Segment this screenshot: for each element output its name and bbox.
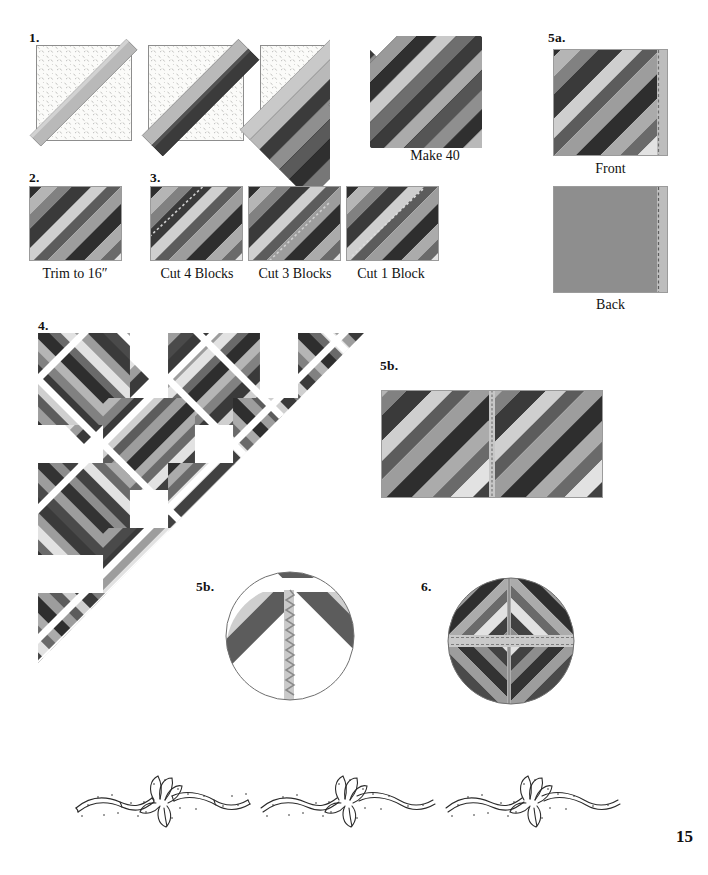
step-2-block <box>29 186 122 261</box>
step-1-panel-2 <box>148 45 244 141</box>
floral-ribbon-motif-3 <box>438 772 628 834</box>
step-5b-seam-detail <box>216 578 364 700</box>
step-2-caption: Trim to 16″ <box>14 266 136 282</box>
step-3-block-3 <box>346 186 439 261</box>
step-3-label: 3. <box>150 170 161 186</box>
step-5a-front-caption: Front <box>548 161 673 177</box>
step-5a-front-block <box>553 49 668 156</box>
step-5b-detail-label: 5b. <box>196 579 214 595</box>
step-6-detail-label: 6. <box>421 579 432 595</box>
step-3-caption-3: Cut 1 Block <box>336 266 446 282</box>
step-5a-label: 5a. <box>548 30 565 46</box>
step-3-block-2 <box>248 186 341 261</box>
step-1-label: 1. <box>29 30 40 46</box>
step-5a-back-block <box>553 186 668 293</box>
step-1-caption: Make 40 <box>385 148 485 164</box>
step-1-panel-4 <box>370 36 482 148</box>
step-2-label: 2. <box>29 170 40 186</box>
step-6-intersection-detail <box>441 578 581 708</box>
step-4-label: 4. <box>38 318 49 334</box>
step-5a-back-caption: Back <box>548 297 673 313</box>
step-3-block-1 <box>150 186 243 261</box>
floral-ribbon-motif-1 <box>68 772 258 834</box>
step-5b-joined-blocks <box>381 390 603 498</box>
step-5b-pair-label: 5b. <box>380 358 398 374</box>
page-number: 15 <box>676 827 693 847</box>
step-1-panel-1 <box>36 45 132 141</box>
floral-ribbon-motif-2 <box>253 772 443 834</box>
instruction-page: 1. <box>0 0 708 875</box>
